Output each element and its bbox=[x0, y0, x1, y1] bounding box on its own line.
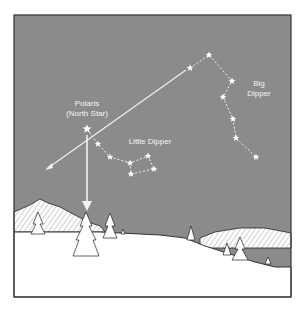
night-sky-diagram bbox=[0, 0, 304, 313]
big-dipper-name-1: Big bbox=[243, 79, 275, 89]
polaris-subtitle: (North Star) bbox=[55, 109, 119, 119]
big-dipper-name-2: Dipper bbox=[243, 89, 275, 99]
big-dipper-label: Big Dipper bbox=[243, 79, 275, 99]
polaris-label: Polaris (North Star) bbox=[55, 99, 119, 119]
little-dipper-label: Little Dipper bbox=[118, 137, 182, 147]
polaris-name: Polaris bbox=[55, 99, 119, 109]
